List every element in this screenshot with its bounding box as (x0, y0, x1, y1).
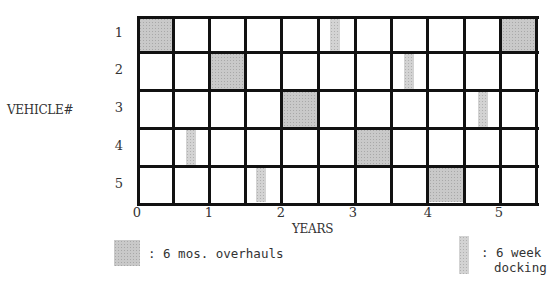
docking-bar-vehicle1 (330, 18, 340, 51)
x-tick-4: 4 (421, 205, 435, 220)
docking-bar-vehicle5 (256, 167, 266, 202)
x-tick-3: 3 (346, 205, 360, 220)
overhaul-block-vehicle5 (429, 167, 464, 202)
grid-line-vertical (463, 16, 466, 206)
grid-line-vertical (244, 16, 247, 206)
x-tick-5: 5 (492, 205, 506, 220)
grid-line-vertical (390, 16, 393, 206)
overhaul-block-vehicle1-end (502, 18, 536, 51)
grid-line-horizontal (137, 127, 539, 130)
vehicle-label-4: 4 (112, 138, 126, 153)
y-axis-title: VEHICLE# (7, 103, 73, 117)
grid-line-horizontal (137, 89, 539, 92)
grid-line-vertical (499, 16, 502, 206)
grid-line-vertical (280, 16, 283, 206)
legend-docking-swatch (459, 236, 469, 274)
grid-line-horizontal (137, 203, 539, 206)
legend-overhaul-label: : 6 mos. overhauls (148, 246, 283, 261)
vehicle-label-1: 1 (112, 25, 126, 40)
overhaul-block-vehicle3 (283, 91, 318, 127)
grid-line-horizontal (137, 51, 539, 54)
grid-line-vertical (535, 16, 538, 206)
x-tick-1: 1 (202, 205, 216, 220)
legend-overhaul-swatch (114, 240, 140, 266)
x-tick-2: 2 (274, 205, 288, 220)
vehicle-label-5: 5 (112, 176, 126, 191)
grid-line-horizontal (137, 16, 539, 19)
overhaul-block-vehicle1-start (139, 18, 173, 51)
x-tick-0: 0 (130, 205, 144, 220)
grid-line-vertical (426, 16, 429, 206)
grid-line-vertical (137, 16, 140, 206)
overhaul-block-vehicle2 (211, 53, 245, 89)
vehicle-label-2: 2 (112, 62, 126, 77)
schedule-grid (137, 16, 536, 203)
grid-line-horizontal (137, 165, 539, 168)
grid-line-vertical (354, 16, 357, 206)
docking-bar-vehicle2 (404, 53, 414, 89)
grid-line-vertical (208, 16, 211, 206)
vehicle-label-3: 3 (112, 100, 126, 115)
legend-docking-label-line2: docking (494, 260, 547, 275)
overhaul-block-vehicle4 (357, 129, 392, 165)
docking-bar-vehicle4 (186, 129, 196, 165)
grid-line-vertical (317, 16, 320, 206)
legend-docking-label-line1: : 6 week (481, 245, 541, 260)
x-axis-title: YEARS (292, 222, 333, 236)
docking-bar-vehicle3 (478, 91, 488, 127)
grid-line-vertical (172, 16, 175, 206)
